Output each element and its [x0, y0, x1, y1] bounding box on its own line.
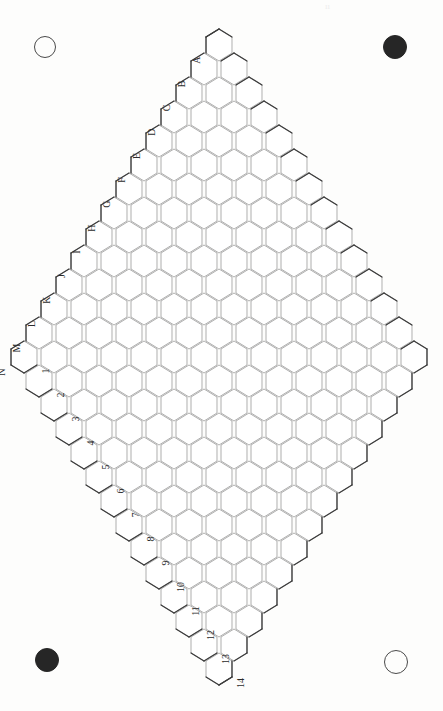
- row-label-a: A: [192, 52, 202, 68]
- col-label-6: 6: [116, 482, 126, 500]
- col-label-7: 7: [131, 506, 141, 524]
- col-label-1: 1: [41, 362, 51, 380]
- col-label-5: 5: [101, 458, 111, 476]
- col-label-4: 4: [86, 434, 96, 452]
- col-label-10: 10: [176, 578, 186, 596]
- row-label-i: I: [72, 244, 82, 260]
- top-edge-artifact: ıı: [325, 1, 330, 11]
- row-label-c: C: [162, 100, 172, 116]
- corner-marker-bottom-left[interactable]: [35, 648, 59, 672]
- col-label-13: 13: [221, 650, 231, 668]
- col-label-12: 12: [206, 626, 216, 644]
- corner-marker-bottom-right[interactable]: [384, 650, 408, 674]
- row-label-k: K: [42, 292, 52, 308]
- hex-grid[interactable]: [0, 0, 443, 711]
- col-label-9: 9: [161, 554, 171, 572]
- row-label-f: F: [117, 172, 127, 188]
- row-label-g: G: [102, 196, 112, 212]
- row-label-m: M: [12, 340, 22, 356]
- corner-marker-top-right[interactable]: [383, 35, 407, 59]
- col-label-8: 8: [146, 530, 156, 548]
- row-label-b: B: [177, 76, 187, 92]
- col-label-11: 11: [191, 602, 201, 620]
- row-label-e: E: [132, 148, 142, 164]
- col-label-14: 14: [236, 674, 246, 692]
- row-label-h: H: [87, 220, 97, 236]
- hex-board-page: ıı ABCDEFGHIJKLMN 1234567891011121314: [0, 0, 443, 711]
- row-label-j: J: [57, 268, 67, 284]
- corner-marker-top-left[interactable]: [34, 36, 56, 58]
- col-label-2: 2: [56, 386, 66, 404]
- row-label-n: N: [0, 364, 7, 380]
- col-label-3: 3: [71, 410, 81, 428]
- hex-cell-group: [11, 29, 427, 685]
- row-label-l: L: [27, 316, 37, 332]
- row-label-d: D: [147, 124, 157, 140]
